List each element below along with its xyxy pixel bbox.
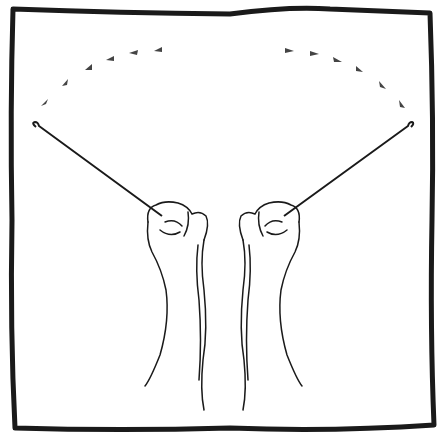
right-fist-icon — [239, 202, 302, 410]
left-crochet-hook-icon — [33, 122, 162, 216]
right-crochet-hook-icon — [284, 122, 413, 216]
frame-border — [11, 8, 434, 429]
left-motion-arc-icon — [41, 47, 162, 106]
left-fist-icon — [145, 202, 208, 410]
illustration — [0, 0, 447, 441]
right-motion-arc-icon — [285, 48, 405, 108]
